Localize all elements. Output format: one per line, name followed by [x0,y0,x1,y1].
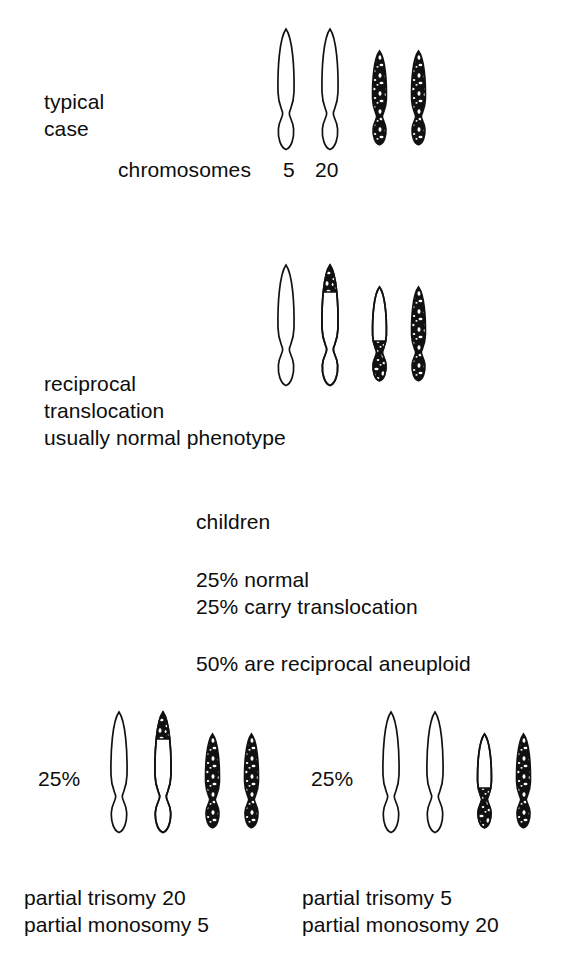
chromosome-5-number-label: 5 [283,156,295,183]
carrier-label-line2: translocation [44,397,164,424]
aneuploid-right-caption-line1: partial trisomy 5 [302,884,452,911]
typical-case-label-line1: typical [44,88,104,115]
chromosome-5-homolog-b [322,29,338,150]
derivative-chromosome-20 [366,287,396,386]
chromosome-5-normal [278,265,294,386]
chromosome-20-homolog-b [245,734,259,828]
karyotype-translocation-carrier [275,258,445,398]
typical-case-label-line2: case [44,115,89,142]
outcome-carrier: 25% carry translocation [196,593,418,620]
karyotype-aneuploid-right-svg [380,705,550,845]
derivative-chromosome-20 [471,734,501,833]
chromosome-20-normal [517,734,531,828]
aneuploid-right-percent: 25% [311,765,353,792]
outcome-aneuploid: 50% are reciprocal aneuploid [196,650,471,677]
derivative-chromosome-5 [315,264,345,386]
chromosome-20-homolog-b [412,51,426,145]
aneuploid-right-caption-line2: partial monosomy 20 [302,911,499,938]
karyotype-aneuploid-left [108,705,278,845]
children-heading: children [196,508,270,535]
chromosome-20-homolog-a [206,734,220,828]
carrier-label-line3: usually normal phenotype [44,424,286,451]
karyotype-typical-svg [275,22,445,162]
chromosome-20-number-label: 20 [315,156,339,183]
chromosome-20-normal [412,287,426,381]
karyotype-aneuploid-left-svg [108,705,278,845]
chromosome-5-homolog-a [278,29,294,150]
aneuploid-left-caption-line1: partial trisomy 20 [24,884,186,911]
aneuploid-left-percent: 25% [38,765,80,792]
karyotype-carrier-svg [275,258,445,398]
karyotype-aneuploid-right [380,705,550,845]
derivative-chromosome-5 [148,711,178,833]
chromosome-5-normal [111,712,127,833]
chromosome-20-homolog-a [373,51,387,145]
chromosomes-caption: chromosomes [118,156,251,183]
aneuploid-left-caption-line2: partial monosomy 5 [24,911,209,938]
outcome-normal: 25% normal [196,566,309,593]
chromosome-5-homolog-b [427,712,443,833]
karyotype-typical [275,22,445,162]
carrier-label-line1: reciprocal [44,370,136,397]
chromosome-5-homolog-a [383,712,399,833]
figure-canvas: typical case [0,0,583,966]
